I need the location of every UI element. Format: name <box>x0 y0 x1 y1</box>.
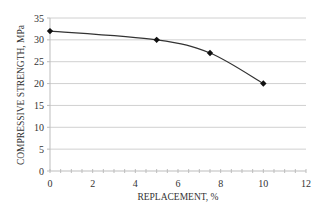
y-tick-label: 25 <box>34 56 44 67</box>
x-tick-label: 4 <box>133 178 138 189</box>
x-tick-label: 8 <box>218 178 223 189</box>
x-axis-title: REPLACEMENT, % <box>137 192 218 202</box>
line-chart: 05101520253035 024681012 REPLACEMENT, % … <box>0 0 326 216</box>
y-tick-label: 10 <box>34 122 44 133</box>
y-tick-label: 5 <box>39 144 44 155</box>
y-tick-label: 35 <box>34 13 44 24</box>
x-tick-label: 6 <box>176 178 181 189</box>
x-tick-label: 12 <box>301 178 311 189</box>
diamond-marker <box>260 80 266 86</box>
x-tick-label: 0 <box>48 178 53 189</box>
x-tick-label: 2 <box>90 178 95 189</box>
x-tick-label: 10 <box>258 178 268 189</box>
y-axis-title: COMPRESSIVE STRENGTH, MPa <box>16 24 26 165</box>
y-tick-label: 15 <box>34 100 44 111</box>
axes <box>47 18 306 173</box>
data-series <box>47 28 267 87</box>
diamond-marker <box>153 37 159 43</box>
gridlines <box>50 18 306 149</box>
y-tick-label: 20 <box>34 78 44 89</box>
y-tick-label: 0 <box>39 166 44 177</box>
y-tick-label: 30 <box>34 34 44 45</box>
y-tick-labels: 05101520253035 <box>34 13 44 177</box>
x-tick-labels: 024681012 <box>48 178 312 189</box>
diamond-marker <box>47 28 53 34</box>
diamond-marker <box>207 50 213 56</box>
